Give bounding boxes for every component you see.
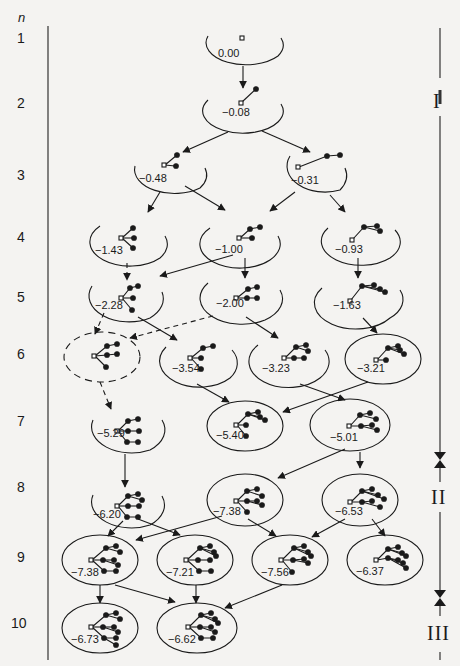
edge-r2a-r3b — [262, 131, 310, 152]
edge-r3a-r4b — [185, 186, 225, 210]
node-r6c: −3.23 — [249, 343, 329, 388]
energy-label: −2.00 — [216, 297, 244, 309]
phase-label-II: II — [431, 486, 446, 508]
energy-label: −0.08 — [222, 106, 250, 118]
row-label-8: 8 — [17, 479, 25, 495]
axis-label-n: n — [18, 10, 25, 25]
edge-r6a-r7a-dashed — [100, 382, 111, 409]
node-r8c: −6.53 — [322, 474, 398, 526]
node-r3a: −0.48 — [135, 153, 207, 194]
node-r6b: −3.54 — [160, 344, 238, 387]
energy-label: −7.56 — [261, 566, 289, 578]
energy-label: −3.23 — [262, 362, 290, 374]
node-r9c: −7.56 — [252, 535, 328, 585]
energy-label: −1.00 — [215, 243, 243, 255]
row-label-3: 3 — [17, 167, 25, 183]
edge-r6d-r7b — [283, 382, 368, 412]
row-label-7: 7 — [17, 413, 25, 429]
row-label-10: 10 — [11, 615, 27, 631]
energy-label: −5.01 — [330, 431, 358, 443]
energy-label: −1.43 — [95, 244, 123, 256]
edge-r9a-r10b — [115, 585, 175, 602]
node-r4c: −0.93 — [321, 224, 400, 266]
node-r5a: −2.28 — [89, 284, 163, 322]
node-r7a: −5.29 — [92, 417, 165, 453]
energy-label: −0.31 — [291, 174, 319, 186]
energy-label: −6.37 — [356, 565, 384, 577]
node-r1a: 0.00 — [206, 36, 283, 65]
energy-label: 0.00 — [218, 47, 239, 59]
node-r5c: −1.63 — [314, 283, 403, 329]
row-label-1: 1 — [17, 30, 25, 46]
edge-r7c-r8b — [278, 449, 345, 478]
edge-r5a-r6a-dashed — [95, 313, 104, 334]
row-label-2: 2 — [17, 95, 25, 111]
energy-label: −6.62 — [168, 633, 196, 645]
node-r8a: −6.20 — [92, 492, 165, 528]
edge-r2a-r3a — [183, 132, 228, 152]
energy-label: −6.73 — [71, 633, 99, 645]
node-r9a: −7.38 — [62, 535, 138, 585]
nodes: 0.00 −0.08 −0.48 −0.31 — [62, 36, 423, 653]
edge-r9c-r10b — [225, 585, 282, 608]
energy-label: −0.48 — [139, 172, 167, 184]
edge-r3b-r4b — [270, 192, 295, 211]
node-r6a-dashed — [64, 332, 140, 382]
node-r10b: −6.62 — [157, 603, 237, 653]
cluster-growth-diagram: n 1 2 3 4 5 6 7 8 9 10 I II III — [0, 0, 460, 666]
edge-r8a-r9a — [108, 521, 123, 536]
phase-label-III: III — [427, 622, 450, 644]
row-axis: n 1 2 3 4 5 6 7 8 9 10 — [11, 10, 48, 660]
energy-label: −7.21 — [166, 566, 194, 578]
node-r9d: −6.37 — [347, 535, 423, 585]
row-label-9: 9 — [17, 549, 25, 565]
edges — [95, 66, 385, 608]
energy-label: −1.63 — [333, 299, 361, 311]
edge-r8c-r9d — [372, 519, 385, 536]
node-r5b: −2.00 — [200, 283, 282, 324]
energy-label: −0.93 — [335, 243, 363, 255]
node-r4b: −1.00 — [200, 225, 280, 268]
row-label-5: 5 — [17, 289, 25, 305]
node-r3b: −0.31 — [287, 153, 347, 192]
edge-r3a-r4a — [148, 192, 160, 212]
edge-r8b-r9c — [248, 519, 276, 536]
node-r9b: −7.21 — [157, 535, 233, 585]
phase-label-I: I — [433, 90, 441, 112]
energy-label: −3.21 — [357, 362, 385, 374]
edge-r5c-r6d — [363, 318, 377, 333]
energy-label: −5.29 — [97, 427, 125, 439]
node-r8b: −7.38 — [207, 474, 283, 526]
node-r2a: −0.08 — [203, 87, 283, 133]
energy-label: −7.38 — [71, 566, 99, 578]
node-r6d: −3.21 — [345, 334, 421, 384]
energy-label: −2.28 — [95, 299, 123, 311]
node-r7b: −5.40 — [207, 401, 283, 451]
edge-r3b-r4c — [330, 195, 345, 212]
edge-r5b-r6c — [246, 317, 278, 338]
phase-axis: I II III — [427, 28, 450, 660]
node-r7c: −5.01 — [310, 399, 390, 451]
row-label-4: 4 — [17, 229, 25, 245]
energy-label: −6.20 — [93, 508, 121, 520]
energy-label: −6.53 — [335, 505, 363, 517]
row-label-6: 6 — [17, 346, 25, 362]
energy-label: −3.54 — [172, 362, 200, 374]
energy-label: −7.38 — [213, 505, 241, 517]
node-r4a: −1.43 — [90, 226, 167, 266]
energy-label: −5.40 — [216, 429, 244, 441]
node-r10a: −6.73 — [62, 603, 138, 653]
